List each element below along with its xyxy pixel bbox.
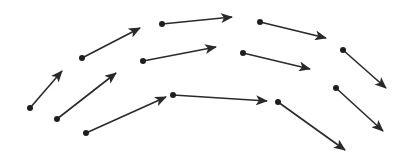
arrow-shaft bbox=[173, 95, 267, 101]
arrow-shaft bbox=[243, 53, 310, 69]
arrow-origin-dot bbox=[79, 55, 85, 61]
arrow-shaft bbox=[86, 97, 166, 133]
arrow-a1 bbox=[27, 71, 62, 111]
vector-field-diagram bbox=[0, 0, 412, 157]
arrow-origin-dot bbox=[27, 105, 33, 111]
arrow-shaft bbox=[260, 22, 326, 38]
arrow-origin-dot bbox=[333, 85, 339, 91]
arrow-origin-dot bbox=[159, 21, 165, 27]
arrow-a11 bbox=[340, 47, 386, 88]
arrow-shaft bbox=[143, 47, 216, 61]
arrow-shaft bbox=[162, 17, 232, 24]
arrow-shaft bbox=[57, 73, 116, 119]
arrow-origin-dot bbox=[140, 58, 146, 64]
arrow-group bbox=[27, 17, 386, 150]
arrow-a7 bbox=[159, 17, 232, 27]
arrow-a2 bbox=[54, 73, 116, 122]
arrow-origin-dot bbox=[83, 130, 89, 136]
arrow-shaft bbox=[278, 102, 345, 150]
arrow-a5 bbox=[140, 47, 216, 64]
arrow-a8 bbox=[257, 19, 326, 38]
arrow-shaft bbox=[336, 88, 383, 131]
arrow-origin-dot bbox=[54, 116, 60, 122]
arrow-origin-dot bbox=[340, 47, 346, 53]
arrow-a12 bbox=[333, 85, 383, 131]
arrow-a6 bbox=[170, 92, 267, 101]
arrow-origin-dot bbox=[170, 92, 176, 98]
vector-field-svg bbox=[0, 0, 412, 157]
arrow-origin-dot bbox=[275, 99, 281, 105]
arrow-origin-dot bbox=[240, 50, 246, 56]
arrow-shaft bbox=[343, 50, 386, 88]
arrow-a9 bbox=[240, 50, 310, 69]
arrow-shaft bbox=[82, 28, 140, 58]
arrow-shaft bbox=[30, 71, 62, 108]
arrow-a4 bbox=[79, 28, 140, 61]
arrow-a10 bbox=[275, 99, 345, 150]
arrow-a3 bbox=[83, 97, 166, 136]
arrow-origin-dot bbox=[257, 19, 263, 25]
